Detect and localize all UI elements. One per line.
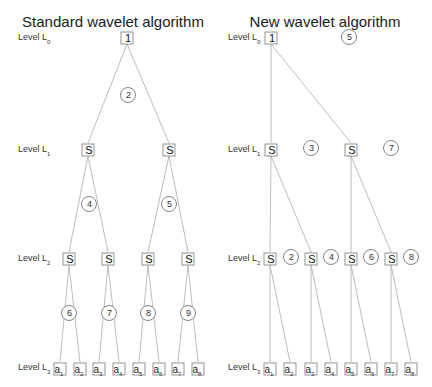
leaf-node: a4: [113, 363, 125, 377]
leaf-node: a4: [325, 363, 337, 377]
sum-node: S: [345, 144, 357, 156]
wavelet-comparison-diagram: Standard wavelet algorithm Level L0Level…: [0, 0, 432, 387]
step-number: 7: [107, 308, 112, 318]
level-label: Level L1: [228, 144, 261, 157]
level-subscript: 3: [257, 369, 261, 375]
step-marker: 5: [162, 197, 177, 212]
tree-edge: [271, 156, 311, 252]
step-marker: 2: [121, 88, 136, 103]
level-labels: Level L0Level L1Level L2Level L3: [18, 32, 51, 375]
leaf-node: a8: [192, 363, 204, 377]
step-number: 6: [67, 308, 72, 318]
sum-node: S: [264, 253, 276, 265]
step-number: 8: [146, 308, 151, 318]
step-marker: 2: [284, 250, 299, 265]
step-marker: 8: [404, 250, 419, 265]
leaf-node: a3: [93, 363, 105, 377]
level-label: Level L2: [228, 253, 261, 266]
sum-node: S: [63, 253, 75, 265]
leaf-node: a3: [305, 363, 317, 377]
tree-edge: [270, 156, 271, 252]
step-number: 7: [389, 143, 394, 153]
level-label: Level L0: [228, 32, 261, 45]
leaf-node: a5: [133, 363, 145, 377]
sum-node: S: [102, 253, 114, 265]
level-subscript: 1: [47, 151, 51, 157]
level-label: Level L2: [18, 253, 51, 266]
panel-title: New wavelet algorithm: [250, 13, 401, 30]
node-label: S: [145, 253, 152, 265]
step-marker: 6: [364, 250, 379, 265]
sum-node: S: [142, 253, 154, 265]
step-number: 3: [309, 143, 314, 153]
leaf-node: a2: [284, 363, 296, 377]
level-label: Level L1: [18, 144, 51, 157]
tree-edge: [351, 156, 391, 252]
panel-title: Standard wavelet algorithm: [22, 13, 204, 30]
level-subscript: 0: [257, 39, 261, 45]
step-marker: 7: [384, 141, 399, 156]
sum-node: S: [182, 253, 194, 265]
new-wavelet-panel: New wavelet algorithm Level L0Level L1Le…: [228, 13, 419, 377]
node-label: S: [85, 144, 92, 156]
leaf-node: a7: [385, 363, 397, 377]
level-label: Level L3: [228, 362, 261, 375]
step-marker: 7: [102, 306, 117, 321]
tree-edge: [351, 265, 371, 362]
node-label: S: [267, 253, 274, 265]
sum-node: S: [265, 144, 277, 156]
step-number: 6: [369, 252, 374, 262]
step-number: 4: [329, 252, 334, 262]
step-number: 4: [87, 199, 92, 209]
sum-node: S: [385, 253, 397, 265]
tree-edge: [271, 44, 351, 143]
leaf-node: a6: [365, 363, 377, 377]
sum-node: S: [163, 144, 175, 156]
node-label: S: [166, 144, 173, 156]
level-subscript: 1: [257, 151, 261, 157]
tree-edge: [391, 265, 411, 362]
node-label: S: [268, 144, 275, 156]
step-marker: 3: [304, 141, 319, 156]
node-label: S: [105, 253, 112, 265]
step-marker: 4: [82, 197, 97, 212]
standard-wavelet-panel: Standard wavelet algorithm Level L0Level…: [18, 13, 204, 377]
step-markers: 2456789: [62, 88, 196, 321]
step-number: 8: [409, 252, 414, 262]
tree-edge: [270, 265, 290, 362]
level-subscript: 3: [47, 369, 51, 375]
node-label: S: [308, 253, 315, 265]
node-label: S: [388, 253, 395, 265]
step-number: 9: [186, 308, 191, 318]
level-label: Level L0: [18, 32, 51, 45]
tree-edges: [270, 44, 411, 362]
level-subscript: 2: [257, 260, 261, 266]
node-label: S: [348, 144, 355, 156]
step-marker: 4: [324, 250, 339, 265]
root-node: 1: [265, 32, 277, 44]
level-label: Level L3: [18, 362, 51, 375]
step-marker: 8: [141, 306, 156, 321]
sum-node: S: [82, 144, 94, 156]
step-number: 5: [167, 199, 172, 209]
step-number: 2: [289, 252, 294, 262]
leaf-node: a1: [54, 363, 66, 377]
node-label: 1: [125, 32, 131, 44]
level-subscript: 2: [47, 260, 51, 266]
node-label: S: [348, 253, 355, 265]
node-label: 1: [269, 32, 275, 44]
tree-edge: [311, 265, 331, 362]
step-marker: 6: [62, 306, 77, 321]
root-node: 1: [121, 32, 133, 44]
leaf-node: a2: [74, 363, 86, 377]
step-marker: 9: [181, 306, 196, 321]
tree-nodes: 1SSSSSSa1a2a3a4a5a6a7a8: [264, 32, 417, 377]
step-marker: 5: [342, 30, 357, 45]
leaf-node: a1: [264, 363, 276, 377]
leaf-node: a7: [172, 363, 184, 377]
sum-node: S: [305, 253, 317, 265]
leaf-node: a8: [405, 363, 417, 377]
level-labels: Level L0Level L1Level L2Level L3: [228, 32, 261, 375]
node-label: S: [185, 253, 192, 265]
level-subscript: 0: [47, 39, 51, 45]
